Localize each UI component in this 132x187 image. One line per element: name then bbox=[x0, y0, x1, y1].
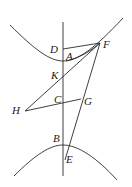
label-B: B bbox=[53, 132, 60, 144]
label-G: G bbox=[84, 95, 92, 107]
label-K: K bbox=[50, 69, 59, 81]
label-F: F bbox=[102, 38, 110, 50]
line-HG bbox=[25, 99, 81, 111]
label-C: C bbox=[54, 93, 62, 105]
label-H: H bbox=[11, 104, 21, 116]
label-A: A bbox=[65, 50, 73, 62]
label-E: E bbox=[65, 153, 73, 165]
geometry-figure: D A F K C G H B E bbox=[0, 0, 132, 187]
label-D: D bbox=[49, 43, 58, 55]
